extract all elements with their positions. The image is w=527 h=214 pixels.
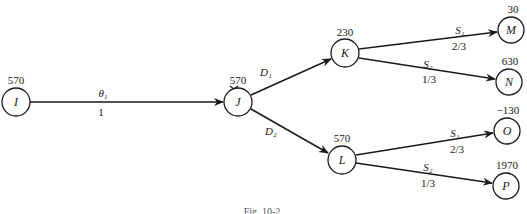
edge-K-N-label: S₂ xyxy=(423,58,432,70)
node-L-label: L xyxy=(339,154,346,166)
edge-L-O-label: S₁ xyxy=(450,127,459,139)
edge-K-M xyxy=(359,32,497,49)
node-P-value: 1970 xyxy=(496,159,518,171)
node-N-value: 630 xyxy=(502,55,519,67)
edge-J-L xyxy=(251,109,328,153)
node-N-label: N xyxy=(505,76,513,88)
node-I-label: I xyxy=(14,96,18,108)
node-M-label: M xyxy=(506,24,516,36)
edge-I-J-prob: 1 xyxy=(98,106,104,118)
node-J-label: J xyxy=(235,96,240,108)
node-J-value: 570 xyxy=(230,74,247,86)
edge-L-O-prob: 2/3 xyxy=(450,143,464,155)
edge-L-O xyxy=(356,133,493,155)
node-M-value: 30 xyxy=(508,3,519,15)
edge-J-L-label: D₂ xyxy=(265,125,277,137)
node-O-value: −130 xyxy=(497,104,520,116)
figure-caption: Fig. 10-2 xyxy=(244,206,281,214)
node-I-value: 570 xyxy=(8,74,25,86)
edge-L-P-prob: 1/3 xyxy=(421,177,435,189)
edge-L-P-label: S₂ xyxy=(423,161,432,173)
edge-K-N-prob: 1/3 xyxy=(422,73,436,85)
node-O-label: O xyxy=(503,125,512,137)
edge-K-M-label: S₁ xyxy=(455,24,464,36)
node-K-value: 230 xyxy=(337,26,354,38)
edge-K-M-prob: 2/3 xyxy=(452,40,466,52)
edge-J-K-label: D₁ xyxy=(260,66,272,78)
node-K-label: K xyxy=(341,47,349,59)
decision-tree-canvas xyxy=(0,0,527,214)
node-P-label: P xyxy=(502,180,509,192)
edge-I-J-label: θ₁ xyxy=(98,87,107,99)
node-L-value: 570 xyxy=(334,132,351,144)
